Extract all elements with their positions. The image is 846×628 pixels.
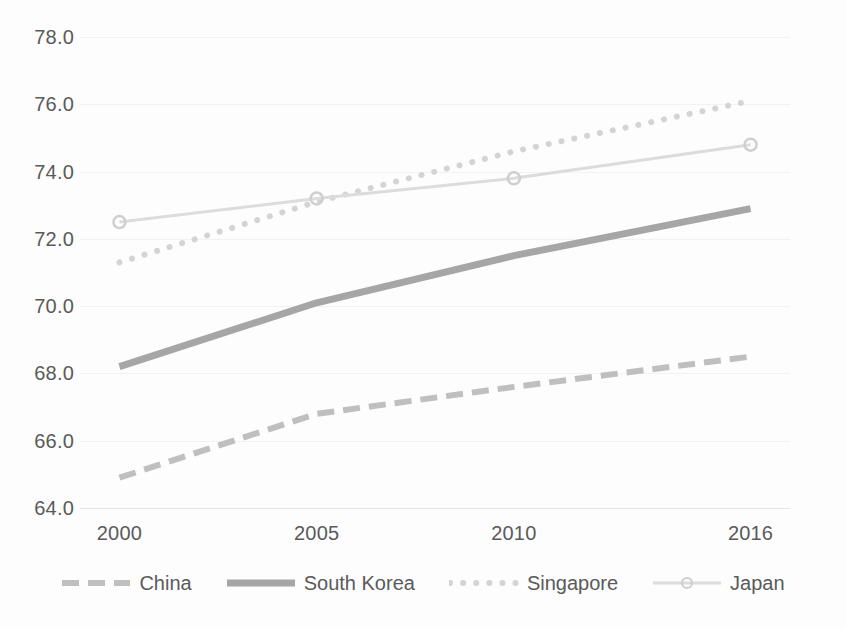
x-axis-tick-label: 2016 (706, 522, 796, 544)
legend-label: Japan (730, 572, 785, 594)
y-axis-tick-label: 66.0 (4, 431, 74, 451)
series-line-japan (119, 145, 750, 222)
legend-item-china[interactable]: China (61, 572, 191, 594)
x-axis-line (80, 508, 790, 509)
y-axis-tick-label: 64.0 (4, 498, 74, 518)
dashed-line-icon (61, 576, 131, 590)
y-axis-tick-label: 74.0 (4, 162, 74, 182)
y-axis-tick-label: 68.0 (4, 363, 74, 383)
line-with-marker-icon (652, 576, 722, 590)
dotted-line-icon (449, 576, 519, 590)
legend-label: China (139, 572, 191, 594)
series-line-singapore (119, 101, 750, 262)
solid-line-icon (226, 576, 296, 590)
legend-label: South Korea (304, 572, 415, 594)
chart-legend: ChinaSouth KoreaSingaporeJapan (0, 572, 846, 594)
series-line-china (119, 357, 750, 478)
y-axis-tick-label: 76.0 (4, 94, 74, 114)
y-axis-tick-label: 72.0 (4, 229, 74, 249)
series-line-south-korea (119, 209, 750, 367)
legend-label: Singapore (527, 572, 618, 594)
x-axis-tick-label: 2010 (469, 522, 559, 544)
line-chart: 78.076.074.072.070.068.066.064.0 2000200… (0, 0, 846, 628)
legend-item-singapore[interactable]: Singapore (449, 572, 618, 594)
series-layer (80, 37, 790, 508)
x-axis-tick-label: 2005 (272, 522, 362, 544)
x-axis-tick-label: 2000 (74, 522, 164, 544)
legend-item-south-korea[interactable]: South Korea (226, 572, 415, 594)
plot-area (80, 37, 790, 508)
y-axis-tick-label: 70.0 (4, 296, 74, 316)
legend-item-japan[interactable]: Japan (652, 572, 785, 594)
y-axis-tick-label: 78.0 (4, 27, 74, 47)
